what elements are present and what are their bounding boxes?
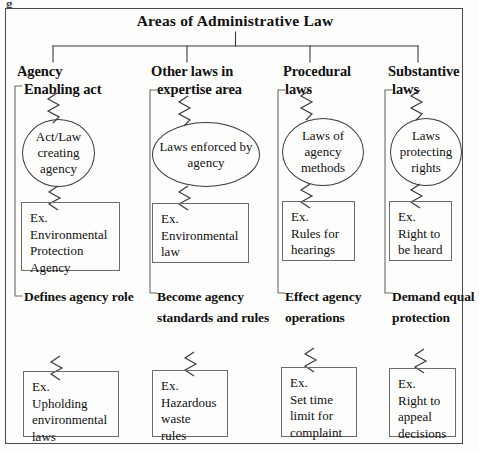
branch-bottomlabel-procedural: Effect agency operations bbox=[285, 286, 405, 328]
bottom-label-line: agency bbox=[322, 289, 361, 304]
example-line: environmental bbox=[32, 412, 118, 429]
example-box-procedural-top: Ex. Rules for hearings bbox=[282, 201, 355, 261]
branch-bottomlabel-substantive: Demand equal protection bbox=[392, 286, 479, 328]
bottom-label-line: agency bbox=[69, 289, 108, 304]
example-box-other-laws-top: Ex. Environmental law bbox=[152, 203, 249, 263]
branch-bottomlabel-other-laws: Become agency standards and rules bbox=[157, 286, 287, 328]
example-line: rules bbox=[161, 428, 227, 445]
example-line: Agency bbox=[30, 260, 119, 277]
example-line: Ex. bbox=[30, 210, 119, 227]
example-line: Ex. bbox=[398, 376, 455, 393]
example-line: decisions bbox=[398, 426, 455, 443]
bottom-label-line: rules bbox=[241, 310, 269, 325]
example-line: laws bbox=[32, 429, 118, 446]
node-substantive-text: Laws protecting rights bbox=[391, 128, 461, 176]
bottom-label-line: role bbox=[112, 289, 134, 304]
node-other-laws: Laws enforced by agency bbox=[152, 122, 260, 187]
example-line: be heard bbox=[398, 242, 451, 259]
branch-toplabel-other-laws: expertise area bbox=[157, 80, 297, 98]
example-line: Set time bbox=[290, 392, 356, 409]
example-line: Right to bbox=[398, 393, 455, 410]
bottom-label-line: protection bbox=[392, 310, 450, 325]
bottom-label-line: operations bbox=[285, 310, 345, 325]
example-line: complaint bbox=[290, 425, 356, 442]
example-line: limit for bbox=[290, 408, 356, 425]
example-line: Right to bbox=[398, 226, 451, 243]
node-procedural: Laws of agency methods bbox=[282, 118, 364, 186]
bottom-label-line: Become agency bbox=[157, 289, 244, 304]
example-line: Ex. bbox=[291, 209, 354, 226]
example-box-other-laws-bottom: Ex. Hazardous waste rules bbox=[152, 370, 228, 437]
branch-heading-other-laws: Other laws in bbox=[151, 62, 291, 80]
bottom-label-line: Defines bbox=[24, 289, 66, 304]
branch-heading-procedural: Procedural bbox=[283, 62, 403, 80]
example-line: Ex. bbox=[161, 378, 227, 395]
example-line: Ex. bbox=[398, 209, 451, 226]
example-box-substantive-top: Ex. Right to be heard bbox=[389, 201, 452, 261]
node-substantive: Laws protecting rights bbox=[390, 118, 462, 186]
branch-toplabel-agency: Enabling act bbox=[24, 80, 154, 98]
example-line: waste bbox=[161, 411, 227, 428]
example-line: Protection bbox=[30, 243, 119, 260]
node-agency-text: Act/Law creating agency bbox=[23, 129, 94, 177]
example-line: appeal bbox=[398, 409, 455, 426]
example-line: Rules for bbox=[291, 226, 354, 243]
example-box-agency-bottom: Ex. Upholding environmental laws bbox=[23, 371, 119, 437]
branch-bottomlabel-agency: Defines agency role bbox=[24, 286, 144, 307]
example-line: Hazardous bbox=[161, 395, 227, 412]
branch-heading-agency: Agency bbox=[17, 62, 137, 80]
node-agency: Act/Law creating agency bbox=[22, 119, 95, 187]
example-line: Ex. bbox=[161, 211, 248, 228]
branch-heading-substantive: Substantive bbox=[388, 62, 479, 80]
bottom-label-line: Demand bbox=[392, 289, 440, 304]
example-box-procedural-bottom: Ex. Set time limit for complaint bbox=[281, 367, 357, 437]
bottom-label-line: standards and bbox=[157, 310, 238, 325]
example-line: Ex. bbox=[290, 375, 356, 392]
diagram-title: Areas of Administrative Law bbox=[0, 12, 470, 30]
example-line: law bbox=[161, 244, 248, 261]
branch-toplabel-substantive: laws bbox=[392, 80, 479, 98]
example-line: Environmental bbox=[161, 228, 248, 245]
bottom-label-line: Effect bbox=[285, 289, 319, 304]
example-box-substantive-bottom: Ex. Right to appeal decisions bbox=[389, 368, 456, 437]
node-other-laws-text: Laws enforced by agency bbox=[153, 139, 259, 171]
branch-toplabel-procedural: laws bbox=[285, 80, 405, 98]
example-line: Environmental bbox=[30, 227, 119, 244]
example-line: Ex. bbox=[32, 379, 118, 396]
example-line: Upholding bbox=[32, 396, 118, 413]
example-box-agency-top: Ex. Environmental Protection Agency bbox=[21, 202, 120, 271]
node-procedural-text: Laws of agency methods bbox=[283, 128, 363, 176]
example-line: hearings bbox=[291, 242, 354, 259]
bottom-label-line: equal bbox=[443, 289, 474, 304]
